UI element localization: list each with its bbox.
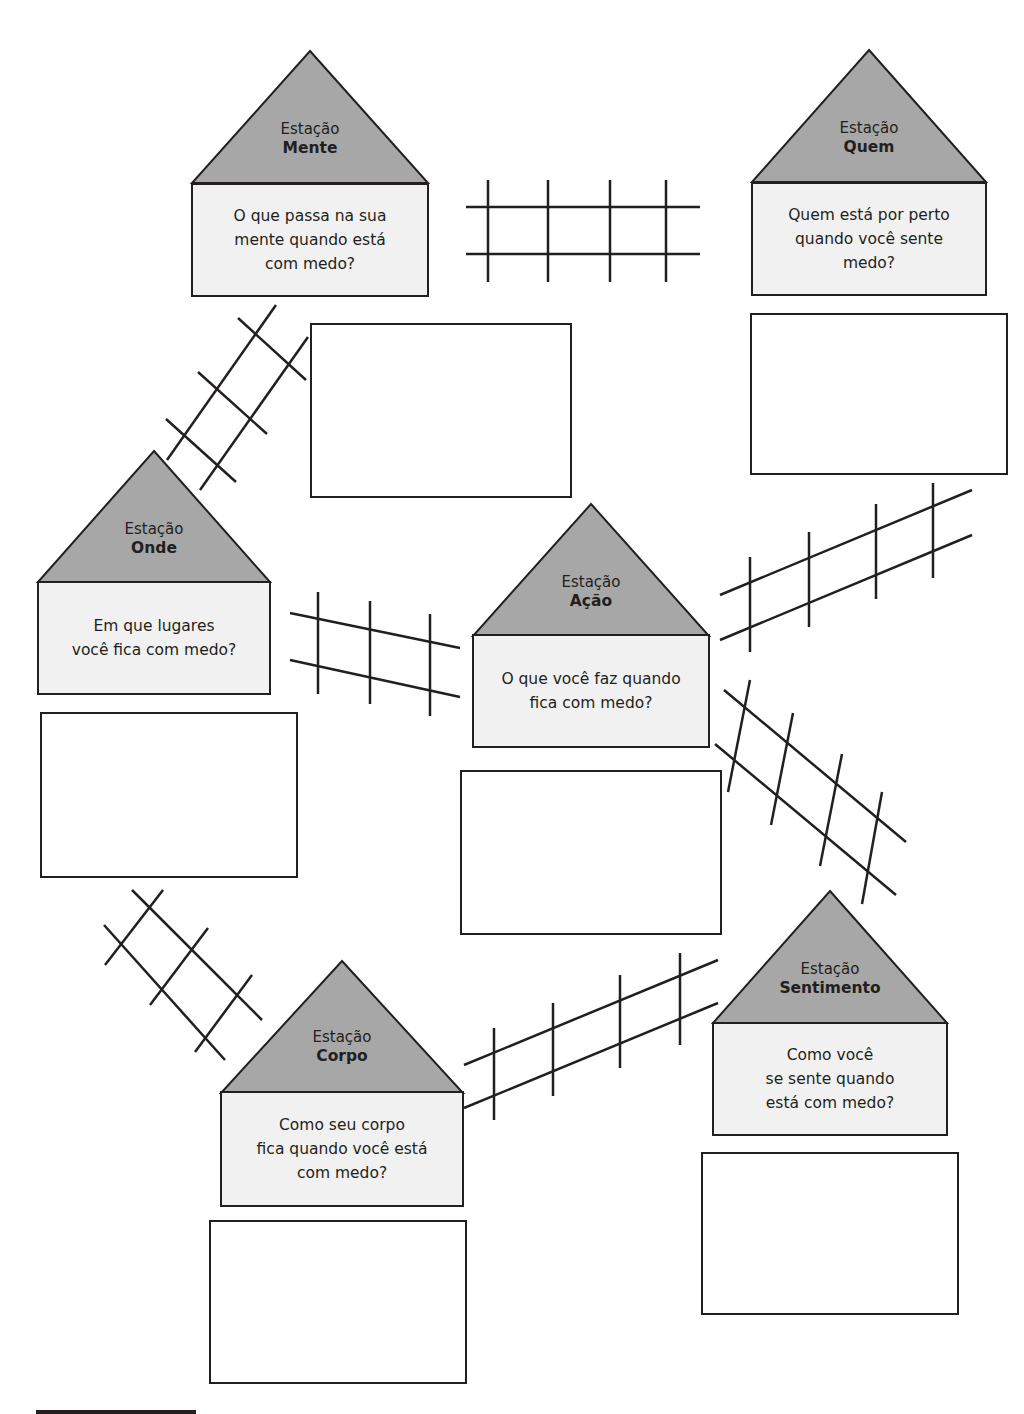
- answer-box-acao[interactable]: [460, 770, 722, 935]
- station-roof: Estação Mente: [191, 50, 429, 184]
- station-label: Estação: [220, 1028, 464, 1047]
- station-question: Em que lugares você fica com medo?: [37, 581, 271, 695]
- track-corpo-sentimento: [464, 953, 718, 1120]
- roof-triangle: [712, 890, 948, 1024]
- track-mente-quem: [466, 180, 700, 282]
- answer-box-corpo[interactable]: [209, 1220, 467, 1384]
- footer-rule: [36, 1410, 196, 1414]
- station-question: Quem está por perto quando você sente me…: [751, 182, 987, 296]
- station-name: Corpo: [220, 1047, 464, 1066]
- track-onde-acao: [290, 592, 460, 716]
- answer-box-onde[interactable]: [40, 712, 298, 878]
- station-question: Como você se sente quando está com medo?: [712, 1022, 948, 1136]
- station-label: Estação: [191, 120, 429, 139]
- station-roof: Estação Sentimento: [712, 890, 948, 1024]
- station-name: Sentimento: [712, 979, 948, 998]
- roof-triangle: [191, 50, 429, 184]
- roof-triangle: [37, 450, 271, 583]
- station-roof: Estação Onde: [37, 450, 271, 583]
- station-roof: Estação Quem: [751, 49, 987, 183]
- station-label: Estação: [751, 119, 987, 138]
- station-name: Ação: [472, 592, 710, 611]
- station-roof: Estação Corpo: [220, 960, 464, 1094]
- station-name: Quem: [751, 138, 987, 157]
- station-name: Mente: [191, 139, 429, 158]
- station-question: Como seu corpo fica quando você está com…: [220, 1091, 464, 1207]
- station-label: Estação: [37, 520, 271, 539]
- answer-box-sentimento[interactable]: [701, 1152, 959, 1315]
- station-question: O que passa na sua mente quando está com…: [191, 183, 429, 297]
- station-question: O que você faz quando fica com medo?: [472, 634, 710, 748]
- station-name: Onde: [37, 539, 271, 558]
- roof-triangle: [751, 49, 987, 183]
- track-acao-sentimento: [715, 680, 906, 904]
- answer-box-quem[interactable]: [750, 313, 1008, 475]
- station-label: Estação: [472, 573, 710, 592]
- roof-triangle: [220, 960, 464, 1094]
- answer-box-mente[interactable]: [310, 323, 572, 498]
- roof-triangle: [472, 503, 710, 637]
- station-label: Estação: [712, 960, 948, 979]
- station-roof: Estação Ação: [472, 503, 710, 637]
- track-acao-quem: [720, 483, 972, 652]
